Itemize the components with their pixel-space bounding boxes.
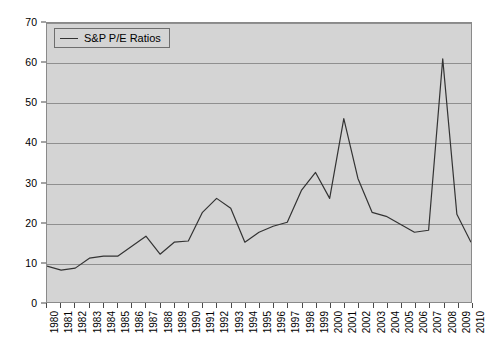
x-tick-mark-2002 [358,303,359,308]
x-tick-mark-1992 [216,303,217,308]
x-tick-mark-1995 [259,303,260,308]
x-tick-mark-2007 [429,303,430,308]
y-axis: 010203040506070 [0,0,46,345]
y-tick-label-20: 20 [25,217,37,228]
x-tick-label-2004: 2004 [391,311,401,333]
x-tick-mark-1996 [273,303,274,308]
x-axis: 1980198119821983198419851986198719881989… [46,303,472,345]
x-tick-label-1983: 1983 [93,311,103,333]
x-tick-mark-1991 [202,303,203,308]
x-tick-mark-1980 [46,303,47,308]
x-tick-mark-1982 [74,303,75,308]
x-tick-label-1999: 1999 [320,311,330,333]
x-tick-label-2006: 2006 [419,311,429,333]
x-tick-label-1997: 1997 [291,311,301,333]
x-tick-label-1982: 1982 [78,311,88,333]
x-tick-label-2009: 2009 [462,311,472,333]
x-tick-mark-2009 [458,303,459,308]
x-tick-label-1988: 1988 [164,311,174,333]
x-tick-label-2002: 2002 [362,311,372,333]
x-tick-label-1996: 1996 [277,311,287,333]
x-tick-label-1990: 1990 [192,311,202,333]
x-tick-mark-2004 [387,303,388,308]
x-tick-mark-2006 [415,303,416,308]
x-tick-mark-1999 [316,303,317,308]
x-tick-mark-2003 [373,303,374,308]
y-tick-label-30: 30 [25,177,37,188]
x-tick-mark-1990 [188,303,189,308]
x-tick-label-1992: 1992 [220,311,230,333]
series-polyline [47,59,471,270]
pe-ratio-line-chart: 010203040506070 S&P P/E Ratios 198019811… [0,0,498,345]
y-tick-label-70: 70 [25,17,37,28]
x-tick-label-1986: 1986 [135,311,145,333]
x-tick-label-1981: 1981 [64,311,74,333]
x-tick-label-1994: 1994 [249,311,259,333]
legend-line-swatch-icon [60,38,78,39]
x-tick-label-1998: 1998 [306,311,316,333]
y-tick-label-60: 60 [25,57,37,68]
x-tick-label-2005: 2005 [405,311,415,333]
x-tick-mark-2000 [330,303,331,308]
x-tick-label-2010: 2010 [476,311,486,333]
series-line-sp-pe-ratios [47,23,471,302]
x-tick-label-1984: 1984 [107,311,117,333]
y-tick-label-0: 0 [31,298,37,309]
x-tick-mark-1986 [131,303,132,308]
x-tick-label-1989: 1989 [178,311,188,333]
x-tick-mark-1985 [117,303,118,308]
x-tick-label-1993: 1993 [235,311,245,333]
x-tick-mark-1997 [287,303,288,308]
x-tick-label-2000: 2000 [334,311,344,333]
legend-label: S&P P/E Ratios [84,32,161,44]
x-tick-mark-2005 [401,303,402,308]
x-tick-mark-2008 [444,303,445,308]
x-tick-label-2007: 2007 [433,311,443,333]
x-tick-mark-1994 [245,303,246,308]
x-tick-label-2003: 2003 [377,311,387,333]
x-tick-label-1980: 1980 [50,311,60,333]
y-tick-label-10: 10 [25,258,37,269]
x-tick-mark-2010 [472,303,473,308]
x-tick-label-1985: 1985 [121,311,131,333]
y-tick-label-50: 50 [25,97,37,108]
chart-legend: S&P P/E Ratios [54,28,170,48]
x-tick-mark-1983 [89,303,90,308]
x-tick-mark-1993 [231,303,232,308]
x-tick-mark-1981 [60,303,61,308]
x-tick-label-1987: 1987 [149,311,159,333]
x-tick-mark-1998 [302,303,303,308]
x-tick-mark-1987 [145,303,146,308]
x-tick-label-1995: 1995 [263,311,273,333]
y-tick-label-40: 40 [25,137,37,148]
x-tick-label-2001: 2001 [348,311,358,333]
x-tick-mark-1984 [103,303,104,308]
x-tick-label-1991: 1991 [206,311,216,333]
x-tick-label-2008: 2008 [448,311,458,333]
plot-area [46,22,472,303]
x-tick-mark-1989 [174,303,175,308]
x-tick-mark-2001 [344,303,345,308]
x-tick-mark-1988 [160,303,161,308]
